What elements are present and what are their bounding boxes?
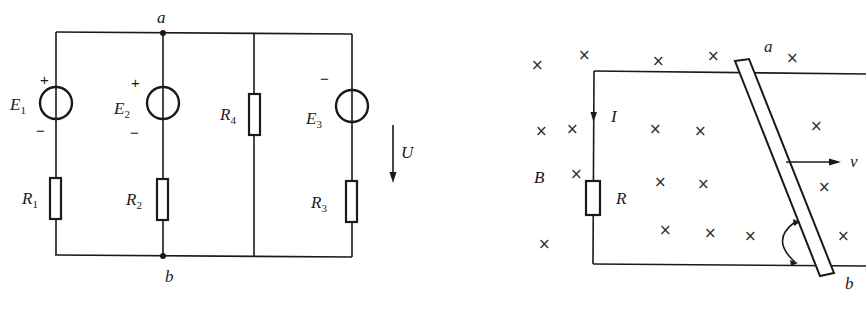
- resistor-r-label: R: [615, 189, 627, 208]
- branch-1: + − E1 R1: [9, 32, 72, 255]
- circuit-diagram: + − E1 R1 + − E2 R2 a b R4: [9, 8, 415, 286]
- figure-canvas: + − E1 R1 + − E2 R2 a b R4: [0, 0, 866, 317]
- arrow-down-icon: [390, 172, 397, 183]
- r2-label: R2: [125, 190, 142, 211]
- e2-plus-sign: +: [131, 74, 140, 91]
- field-cross: ×: [531, 56, 544, 74]
- top-rail: [594, 71, 866, 74]
- field-cross: ×: [694, 122, 707, 140]
- angle-arc: [783, 222, 796, 262]
- field-cross: ×: [707, 47, 720, 65]
- voltage-u-arrow: U: [390, 125, 416, 183]
- top-wire: [56, 32, 352, 34]
- resistor-r: [586, 181, 600, 215]
- field-cross: ×: [744, 227, 757, 245]
- branch-2: + − E2 R2: [113, 32, 179, 256]
- left-wire: [593, 71, 594, 264]
- field-cross: ×: [704, 224, 717, 242]
- node-a-label: a: [157, 8, 166, 27]
- field-cross: ×: [535, 122, 548, 140]
- voltage-u-label: U: [401, 143, 415, 162]
- resistor-r1: [50, 178, 61, 219]
- arrow-right-icon: [829, 159, 841, 166]
- field-cross: ×: [659, 221, 672, 239]
- node-a-dot: [160, 30, 166, 36]
- branch-3: R4: [219, 33, 260, 256]
- rail-rod-diagram: I R B a b v × × × × × × × × × × ×: [531, 37, 866, 293]
- field-cross: ×: [538, 235, 551, 253]
- field-cross: ×: [654, 173, 667, 191]
- e3-label: E3: [305, 109, 322, 130]
- e1-label: E1: [9, 95, 26, 116]
- field-b-label: B: [534, 168, 545, 187]
- resistor-r4: [249, 94, 260, 135]
- field-cross: ×: [697, 175, 710, 193]
- r3-label: R3: [310, 193, 327, 214]
- e2-label: E2: [113, 99, 130, 120]
- node-b-label: b: [165, 267, 174, 286]
- field-cross: ×: [652, 52, 665, 70]
- field-cross: ×: [649, 120, 662, 138]
- resistor-r3: [346, 181, 357, 222]
- field-cross: ×: [786, 49, 799, 67]
- e1-plus-sign: +: [40, 71, 49, 88]
- node-b-dot: [160, 253, 166, 259]
- rod-end-a-label: a: [764, 37, 773, 56]
- field-cross: ×: [570, 165, 583, 183]
- rod-end-b-label: b: [845, 274, 854, 293]
- current-arrow-icon: [591, 112, 598, 122]
- e3-minus-sign: −: [320, 70, 329, 87]
- r1-label: R1: [21, 189, 38, 210]
- field-cross: ×: [578, 46, 591, 64]
- current-i-label: I: [610, 107, 618, 126]
- bottom-wire: [55, 255, 352, 257]
- e2-minus-sign: −: [130, 124, 139, 141]
- field-cross: ×: [566, 120, 579, 138]
- e1-minus-sign: −: [36, 122, 45, 139]
- field-cross: ×: [810, 117, 823, 135]
- r4-label: R4: [219, 105, 236, 126]
- branch-4: − E3 R3: [305, 34, 368, 257]
- field-cross: ×: [818, 178, 831, 196]
- field-cross: ×: [837, 227, 850, 245]
- velocity-v-label: v: [850, 152, 858, 171]
- resistor-r2: [157, 179, 168, 220]
